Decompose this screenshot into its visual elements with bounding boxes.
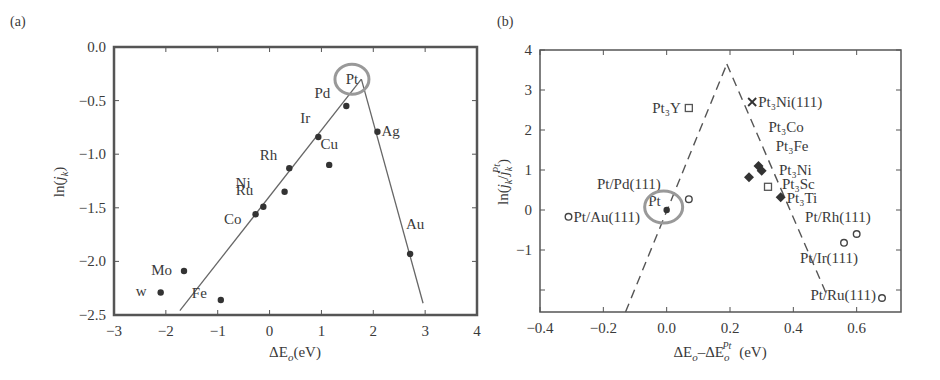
x-tick-label: −1 [210, 323, 226, 339]
open-circle-marker-icon [565, 214, 572, 221]
data-point-w: w [136, 283, 164, 299]
data-point-label: w [136, 283, 147, 299]
data-point-pt-ru-111-: Pt/Ru(111) [810, 287, 885, 304]
x-tick-label: 0.2 [721, 320, 740, 336]
filled-circle-marker-icon [157, 289, 163, 295]
filled-circle-marker-icon [326, 162, 332, 168]
y-tick-label: −1.5 [79, 200, 106, 216]
data-point-ag: Ag [374, 123, 400, 139]
highlight-annotation-pt: Pt [335, 64, 369, 94]
x-tick-label: 2 [370, 323, 378, 339]
x-tick-label: −3 [106, 323, 122, 339]
x-tick-label: 1 [318, 323, 326, 339]
data-point-pt-ir-111-: Pt/Ir(111) [800, 240, 858, 267]
data-point-label: Pt₃Y [652, 100, 681, 116]
panel-a-label: (a) [10, 14, 26, 30]
x-tick-label: 0.0 [657, 320, 676, 336]
data-point-ir: Ir [300, 110, 321, 140]
x-tick-label: 0 [266, 323, 274, 339]
y-tick-label: −2.0 [79, 253, 106, 269]
data-point-pt-rh-111-: Pt/Rh(111) [805, 209, 871, 237]
panel-a-chart: (a) −3−2−1012340.0−0.5−1.0−1.5−2.0−2.5 P… [10, 14, 481, 363]
data-point-ru: Ru [236, 182, 267, 210]
data-point-cu: Cu [320, 136, 338, 168]
x-tick-label: −2 [158, 323, 174, 339]
data-point-label: Ir [300, 110, 310, 126]
panel-b-chart: (b) −0.4−0.20.00.20.40.643210−1 Pt₃YPt₃N… [491, 14, 901, 363]
filled-diamond-marker-icon [744, 172, 754, 182]
data-point-co: Co [224, 211, 259, 227]
filled-circle-marker-icon [374, 128, 380, 134]
y-tick-label: −1.0 [79, 146, 106, 162]
panel-a-x-axis-label: ΔEo(eV) [269, 344, 321, 363]
x-tick-label: 0.6 [847, 320, 866, 336]
filled-circle-marker-icon [286, 165, 292, 171]
figure: (a) −3−2−1012340.0−0.5−1.0−1.5−2.0−2.5 P… [0, 0, 940, 380]
data-point-pt-pd-111-: Pt/Pd(111) [597, 176, 692, 202]
open-square-marker-icon [685, 105, 692, 112]
panel-b-label: (b) [497, 14, 514, 30]
y-tick-label: −1 [516, 242, 532, 258]
filled-circle-marker-icon [407, 251, 413, 257]
filled-circle-marker-icon [252, 211, 258, 217]
y-tick-label: −2.5 [79, 307, 106, 323]
x-tick-label: −0.2 [590, 320, 617, 336]
data-point-mo: Mo [151, 262, 187, 278]
open-circle-marker-icon [841, 240, 848, 247]
x-tick-label: −0.4 [526, 320, 554, 336]
svg-text:ΔEo–ΔEoPt (eV): ΔEo–ΔEoPt (eV) [673, 340, 766, 363]
y-tick-label: −0.5 [79, 93, 106, 109]
data-point-label: Au [406, 216, 425, 232]
figure-canvas: (a) −3−2−1012340.0−0.5−1.0−1.5−2.0−2.5 P… [0, 0, 940, 380]
data-point-label: Pt₃Co [769, 119, 804, 135]
panel-b-y-axis-label: ln(jk/jkPt) [491, 159, 514, 205]
open-square-marker-icon [765, 183, 772, 190]
svg-text:ln(jk): ln(jk) [51, 167, 70, 197]
panel-b-data-points: Pt₃YPt₃Ni(111)Pt₃CoPt₃FePt₃NiPt₃ScPt₃TiP… [565, 94, 885, 304]
data-point-label: Cu [320, 136, 338, 152]
highlight-label: Pt [346, 71, 359, 87]
data-point-pd: Pd [314, 85, 349, 109]
filled-circle-marker-icon [218, 297, 224, 303]
x-tick-label: 0.4 [784, 320, 803, 336]
filled-circle-marker-icon [181, 268, 187, 274]
open-circle-marker-icon [879, 295, 886, 302]
data-point-label: Pt₃Ni(111) [758, 94, 822, 111]
y-tick-label: 2 [525, 122, 533, 138]
data-point-pt3y: Pt₃Y [652, 100, 692, 116]
open-circle-marker-icon [853, 231, 860, 238]
panel-a-data-points: PdIrAgCuRhNiRuCoAuMowFePt [136, 64, 425, 303]
svg-text:ΔEo(eV): ΔEo(eV) [269, 344, 321, 363]
y-tick-label: 0.0 [87, 39, 106, 55]
filled-circle-marker-icon [281, 189, 287, 195]
panel-b-plot-frame [540, 50, 901, 312]
data-point-label: Mo [151, 262, 172, 278]
panel-b-x-axis-label: ΔEo–ΔEoPt (eV) [673, 340, 766, 363]
y-tick-label: 3 [525, 82, 533, 98]
filled-circle-marker-icon [663, 207, 669, 213]
y-tick-label: 0 [525, 202, 533, 218]
data-point-label: Pd [314, 85, 330, 101]
data-point-label: Pt/Ru(111) [810, 287, 876, 304]
data-point-label: Pt₃Ti [787, 190, 818, 206]
filled-circle-marker-icon [343, 103, 349, 109]
svg-text:ln(jk/jkPt): ln(jk/jkPt) [491, 159, 514, 205]
solid-trend-line [361, 79, 423, 303]
data-point-label: Co [224, 211, 242, 227]
data-point-pt3ni-111-: Pt₃Ni(111) [748, 94, 822, 111]
data-point-rh: Rh [260, 147, 293, 171]
open-circle-marker-icon [686, 196, 693, 203]
panel-a-y-axis-label: ln(jk) [51, 167, 70, 197]
data-point-label: Rh [260, 147, 278, 163]
data-point-label: Ru [236, 182, 254, 198]
data-point-pt-au-111-: Pt/Au(111) [565, 209, 640, 226]
x-tick-label: 3 [421, 323, 429, 339]
data-point-label: Pt/Au(111) [574, 209, 640, 226]
filled-diamond-marker-icon [776, 192, 786, 202]
data-point-label: Pt₃Fe [776, 138, 809, 154]
data-point-label: Ag [381, 123, 400, 139]
data-point-label: Fe [192, 285, 207, 301]
data-point-label: Pt/Rh(111) [805, 209, 871, 226]
filled-circle-marker-icon [260, 204, 266, 210]
solid-trend-line [180, 79, 362, 311]
